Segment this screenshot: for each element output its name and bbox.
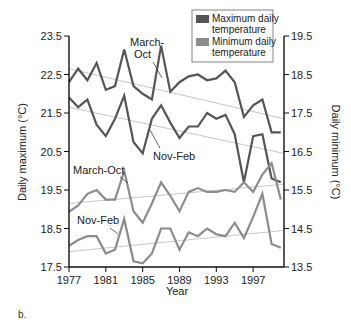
y-axis-right-title: Daily minimum (°C) [330, 105, 342, 200]
y-tick-label-left: 17.5 [41, 261, 62, 273]
temperature-line-chart: 23.522.521.520.519.518.517.519.518.517.5… [0, 0, 351, 327]
annotation-max-march-oct-2: Oct [134, 48, 151, 60]
y-tick-label-right: 14.5 [291, 223, 312, 235]
y-tick-label-right: 17.5 [291, 107, 312, 119]
x-tick-label: 1993 [204, 274, 228, 286]
panel-label: b. [18, 309, 26, 320]
x-tick-label: 1981 [94, 274, 118, 286]
legend-swatch-min [196, 38, 209, 46]
annotation-max-march-oct: March- [130, 36, 165, 48]
y-tick-label-left: 22.5 [41, 69, 62, 81]
y-tick-label-right: 13.5 [291, 261, 312, 273]
y-tick-label-left: 18.5 [41, 223, 62, 235]
y-tick-label-left: 20.5 [41, 146, 62, 158]
legend: Maximum daily temperature Minimum daily … [192, 10, 279, 62]
legend-label-min-2: temperature [212, 47, 266, 58]
x-tick-label: 1985 [130, 274, 154, 286]
annotation-min-march-oct: March-Oct [73, 164, 124, 176]
x-axis-title: Year [166, 285, 189, 297]
y-tick-label-right: 19.5 [291, 30, 312, 42]
y-axis-left-title: Daily maximum (°C) [16, 103, 28, 201]
legend-label-max-2: temperature [212, 24, 266, 35]
x-tick-label: 1977 [57, 274, 81, 286]
annotation-min-nov-feb: Nov-Feb [77, 214, 119, 226]
y-tick-label-left: 21.5 [41, 107, 62, 119]
legend-label-min-1: Minimum daily [212, 36, 276, 47]
y-tick-label-left: 23.5 [41, 30, 62, 42]
legend-label-max-1: Maximum daily [212, 13, 279, 24]
annotation-max-nov-feb: Nov-Feb [153, 150, 195, 162]
x-tick-label: 1997 [241, 274, 265, 286]
legend-swatch-max [196, 15, 209, 23]
y-tick-label-right: 18.5 [291, 69, 312, 81]
y-tick-label-left: 19.5 [41, 184, 62, 196]
y-tick-label-right: 16.5 [291, 146, 312, 158]
y-tick-label-right: 15.5 [291, 184, 312, 196]
